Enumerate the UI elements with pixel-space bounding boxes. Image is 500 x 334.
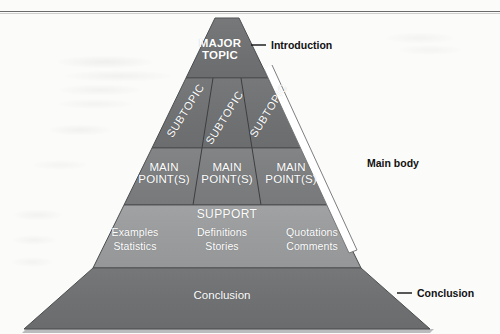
figure-canvas: MAJOR TOPIC SUBTOPIC SUBTOPIC SUBTOPIC M… [0,0,500,334]
band-support-texture [93,205,361,268]
annotation-introduction: Introduction [271,39,332,51]
band-main-points-texture [124,148,330,205]
band-apex-texture [186,18,268,78]
annotation-main-body: Main body [367,157,419,169]
annotation-conclusion: Conclusion [417,287,474,299]
pyramid-diagram [0,0,500,334]
base-shadow [22,329,434,333]
band-conclusion-texture [24,268,430,329]
